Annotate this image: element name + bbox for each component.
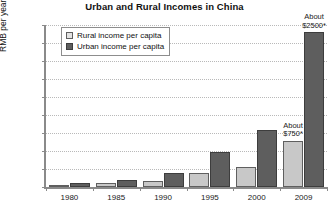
y-tick-mark [42, 25, 46, 26]
x-tick-mark [187, 187, 188, 191]
x-tick-label-2009: 2009 [281, 193, 327, 202]
x-tick-label-1980: 1980 [46, 193, 92, 202]
bar-rural-1990 [143, 181, 163, 187]
bar-rural-1995 [189, 173, 209, 187]
x-tick-mark [327, 187, 328, 191]
bar-urban-2000 [257, 130, 277, 187]
bar-urban-1995 [210, 152, 230, 187]
bar-rural-2000 [236, 167, 256, 187]
bar-group-2000 [236, 25, 277, 187]
y-tick-mark [42, 151, 46, 152]
bar-urban-2009 [304, 32, 324, 187]
bar-group-2009 [283, 25, 324, 187]
x-tick-label-1995: 1995 [187, 193, 233, 202]
urban-2009-annotation: About$2500* [296, 13, 329, 30]
y-tick-mark [42, 115, 46, 116]
bar-rural-1980 [49, 185, 69, 187]
bar-rural-2009 [283, 141, 303, 187]
x-tick-mark [93, 187, 94, 191]
y-axis-label: RMB per year [0, 0, 8, 52]
legend-swatch-rural-icon [66, 32, 73, 39]
legend-label-rural: Rural income per capita [77, 31, 161, 40]
rural-2009-annotation: About$750* [275, 122, 311, 139]
x-tick-mark [140, 187, 141, 191]
legend-label-urban: Urban income per capita [77, 42, 164, 51]
x-tick-mark [233, 187, 234, 191]
legend-swatch-urban-icon [66, 43, 73, 50]
y-tick-mark [42, 97, 46, 98]
y-tick-mark [42, 133, 46, 134]
bar-urban-1980 [70, 183, 90, 187]
x-tick-label-2000: 2000 [234, 193, 280, 202]
x-tick-mark [46, 187, 47, 191]
legend-item-urban: Urban income per capita [66, 41, 164, 52]
y-tick-mark [42, 169, 46, 170]
y-tick-mark [42, 61, 46, 62]
x-tick-mark [280, 187, 281, 191]
y-tick-mark [42, 43, 46, 44]
urban-2009-annotation-line2: $2500* [296, 22, 329, 31]
bar-urban-1985 [117, 180, 137, 187]
y-tick-mark [42, 79, 46, 80]
rural-2009-annotation-line2: $750* [275, 130, 311, 139]
chart-figure: Urban and Rural Incomes in China RMB per… [0, 0, 329, 220]
chart-title: Urban and Rural Incomes in China [0, 1, 329, 12]
x-tick-label-1985: 1985 [93, 193, 139, 202]
bar-rural-1985 [96, 183, 116, 187]
bar-urban-1990 [164, 173, 184, 187]
chart-legend: Rural income per capita Urban income per… [61, 27, 170, 56]
x-tick-label-1990: 1990 [140, 193, 186, 202]
bar-group-1995 [189, 25, 230, 187]
legend-item-rural: Rural income per capita [66, 30, 164, 41]
